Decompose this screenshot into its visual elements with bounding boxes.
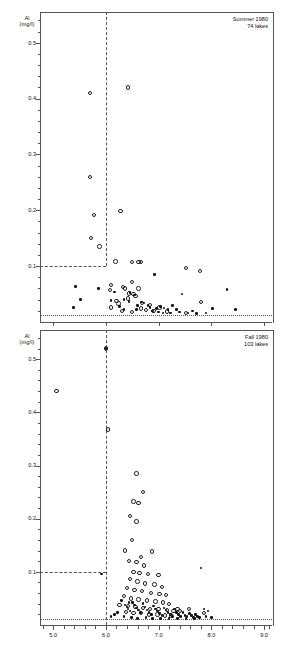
annotation-title: Fall 1980	[244, 334, 268, 341]
x-minor-tick	[64, 626, 65, 629]
reference-line-horizontal-summer-2	[40, 315, 272, 316]
x-tick-upper-1	[106, 323, 107, 326]
y-minor-tick-fall	[38, 561, 41, 562]
reference-line-horizontal-summer-1	[40, 266, 106, 267]
data-point-open	[129, 596, 133, 600]
y-minor-tick-fall	[38, 582, 41, 583]
y-axis-label-fall: Al(mg/l)	[14, 333, 40, 346]
data-point-open	[123, 548, 127, 552]
annotation-subtitle: 74 lakes	[233, 23, 268, 30]
y-tick-summer-3	[36, 99, 40, 100]
y-minor-tick-fall	[38, 614, 41, 615]
y-minor-tick-fall	[38, 508, 41, 509]
data-point-filled	[159, 305, 162, 308]
reference-line-vertical-fall	[106, 330, 107, 625]
x-tick-upper-2	[159, 323, 160, 326]
y-minor-tick-summer	[38, 199, 41, 200]
x-minor-tick	[95, 626, 96, 629]
y-minor-tick-fall	[38, 380, 41, 381]
data-point-filled	[153, 273, 156, 276]
data-point-filled	[79, 298, 82, 301]
y-minor-tick-summer	[38, 244, 41, 245]
data-point-filled	[136, 304, 139, 307]
data-point-open	[135, 579, 139, 583]
data-point-filled	[133, 604, 136, 607]
data-point-filled	[72, 306, 75, 309]
x-minor-tick	[116, 626, 117, 629]
data-point-open	[161, 600, 165, 604]
x-minor-tick	[269, 626, 270, 629]
data-point-filled	[135, 308, 138, 311]
data-point-open	[139, 555, 143, 559]
x-minor-tick	[190, 626, 191, 629]
data-point-filled	[179, 615, 182, 618]
x-minor-tick	[169, 626, 170, 629]
y-tick-fall-1	[36, 519, 40, 520]
data-point-filled	[118, 305, 121, 308]
y-minor-tick-summer	[38, 233, 41, 234]
data-point-filled	[150, 613, 153, 616]
x-tick-2	[159, 626, 160, 630]
data-point-filled	[191, 310, 194, 313]
y-tick-fall-2	[36, 466, 40, 467]
annotation-subtitle: 103 lakes	[244, 341, 268, 348]
reference-line-horizontal-fall-2	[40, 619, 272, 620]
data-point-filled	[157, 311, 160, 314]
y-minor-tick-summer	[38, 277, 41, 278]
data-point-filled	[113, 291, 116, 294]
y-axis-label-line2: (mg/l)	[14, 339, 40, 345]
data-point-open	[199, 300, 203, 304]
y-minor-tick-summer	[38, 288, 41, 289]
y-minor-tick-fall	[38, 444, 41, 445]
x-tick-3	[211, 626, 212, 630]
y-minor-tick-summer	[38, 54, 41, 55]
y-minor-tick-fall	[38, 349, 41, 350]
x-minor-tick	[232, 626, 233, 629]
x-tick-upper-3	[211, 323, 212, 326]
y-axis-label-line2: (mg/l)	[14, 21, 40, 27]
data-point-filled	[159, 617, 162, 620]
x-minor-tick	[127, 626, 128, 629]
y-tick-label-summer-2: 0.3	[8, 151, 36, 157]
data-point-open	[117, 603, 121, 607]
y-minor-tick-summer	[38, 143, 41, 144]
data-point-open	[136, 501, 140, 505]
data-point-filled	[155, 307, 158, 310]
data-point-open	[109, 305, 113, 309]
x-tick-label-3: 8.0	[197, 632, 225, 638]
data-point-filled	[195, 312, 198, 315]
y-tick-label-summer-0: 0.1	[8, 263, 36, 269]
x-tick-label-0: 5.0	[39, 632, 67, 638]
data-point-filled	[97, 287, 100, 290]
data-point-filled	[211, 307, 214, 310]
y-minor-tick-fall	[38, 402, 41, 403]
y-minor-tick-summer	[38, 87, 41, 88]
y-tick-fall-3	[36, 412, 40, 413]
y-tick-summer-2	[36, 154, 40, 155]
x-minor-tick	[201, 626, 202, 629]
y-minor-tick-fall	[38, 497, 41, 498]
y-minor-tick-summer	[38, 221, 41, 222]
y-tick-summer-4	[36, 43, 40, 44]
x-tick-label-2: 7.0	[145, 632, 173, 638]
y-tick-label-fall-1: 0.2	[8, 515, 36, 521]
data-point-open	[118, 209, 122, 213]
y-minor-tick-fall	[38, 593, 41, 594]
x-minor-tick	[138, 626, 139, 629]
y-minor-tick-fall	[38, 455, 41, 456]
y-minor-tick-summer	[38, 255, 41, 256]
y-minor-tick-summer	[38, 132, 41, 133]
data-point-open	[131, 570, 135, 574]
data-point-open	[143, 581, 147, 585]
x-tick-label-1: 6.0	[92, 632, 120, 638]
x-minor-tick	[148, 626, 149, 629]
reference-line-horizontal-fall-1	[40, 572, 106, 573]
panel-frame-fall	[40, 330, 274, 626]
x-tick-upper-0	[53, 323, 54, 326]
y-tick-fall-4	[36, 359, 40, 360]
data-point-filled	[139, 611, 142, 614]
y-minor-tick-fall	[38, 529, 41, 530]
x-minor-tick	[180, 626, 181, 629]
x-minor-tick	[254, 626, 255, 629]
data-point-open	[156, 573, 160, 577]
